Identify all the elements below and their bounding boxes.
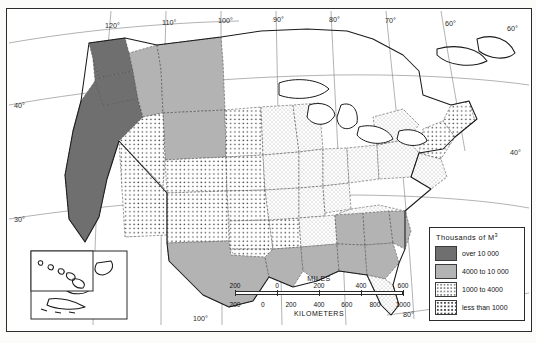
legend-swatch-less-1000: [435, 300, 457, 315]
scale-miles-tick-2: 200: [313, 282, 324, 289]
map-plate: 120° 110° 100° 90° 80° 70° 60° 40° 30° 6…: [0, 0, 536, 343]
lat-label-right-40: 40°: [510, 148, 521, 157]
legend-entry-over-10000: over 10 000: [435, 246, 519, 261]
legend: Thousands of M3 over 10 000 4000 to 10 0…: [429, 227, 525, 321]
scale-miles-tick-0: 200: [229, 282, 240, 289]
legend-title-text: Thousands of M: [436, 233, 495, 242]
scale-km-tick-5: 800: [369, 301, 380, 308]
legend-label-4000-10000: 4000 to 10 000: [462, 268, 509, 275]
scale-km-tick-4: 600: [341, 301, 352, 308]
scale-km-tick-1: 0: [261, 301, 265, 308]
scale-km-tick-3: 400: [313, 301, 324, 308]
scale-km-tick-0: 200: [229, 301, 240, 308]
lon-label-100: 100°: [218, 16, 233, 25]
scale-tick-mark: [361, 290, 362, 296]
legend-swatch-1000-4000: [435, 282, 457, 297]
map-neatline-frame: 120° 110° 100° 90° 80° 70° 60° 40° 30° 6…: [6, 8, 532, 332]
legend-swatch-4000-10000: [435, 264, 457, 279]
scale-km-tick-2: 200: [285, 301, 296, 308]
scale-miles-tick-4: 600: [397, 282, 408, 289]
inset-hawaii: [31, 251, 93, 291]
legend-label-over-10000: over 10 000: [462, 250, 499, 257]
lon-label-70: 70°: [385, 16, 396, 25]
scale-kilometers-numbers: 200 0 200 400 600 800 1000: [235, 301, 403, 310]
scale-miles-tick-3: 400: [355, 282, 366, 289]
lat-label-left-40: 40°: [14, 101, 25, 110]
legend-entry-1000-4000: 1000 to 4000: [435, 282, 519, 297]
legend-entry-less-1000: less than 1000: [435, 300, 519, 315]
legend-label-1000-4000: 1000 to 4000: [462, 286, 503, 293]
legend-title: Thousands of M3: [436, 232, 519, 242]
scale-miles-tick-1: 0: [275, 282, 279, 289]
region-new-england-less-1000: [419, 101, 475, 159]
scale-km-tick-6: 1000: [396, 301, 411, 308]
lon-label-80: 80°: [329, 15, 340, 24]
legend-entry-4000-10000: 4000 to 10 000: [435, 264, 519, 279]
lon-label-bottom-100: 100°: [193, 314, 208, 323]
scale-tick-mark: [235, 290, 236, 296]
scale-tick-mark: [403, 290, 404, 296]
scale-caption-kilometers: KILOMETERS: [235, 310, 403, 317]
lon-label-60: 60°: [445, 19, 456, 28]
lat-label-left-30: 30°: [14, 215, 25, 224]
scale-tick-mark: [277, 290, 278, 296]
lon-label-110: 110°: [162, 18, 176, 27]
lat-label-right-60: 60°: [507, 24, 518, 33]
legend-title-superscript: 3: [495, 232, 498, 238]
lon-label-90: 90°: [273, 15, 284, 24]
scale-tick-mark: [319, 290, 320, 296]
lon-label-120: 120°: [105, 21, 120, 30]
scale-bar: MILES 200 0 200 400 600 200 0 200 400: [235, 275, 403, 317]
legend-label-less-1000: less than 1000: [462, 304, 508, 311]
lon-label-bottom-80: 80°: [403, 310, 414, 319]
scale-caption-miles: MILES: [235, 275, 403, 282]
scale-graphic: [235, 291, 403, 301]
legend-swatch-over-10000: [435, 246, 457, 261]
